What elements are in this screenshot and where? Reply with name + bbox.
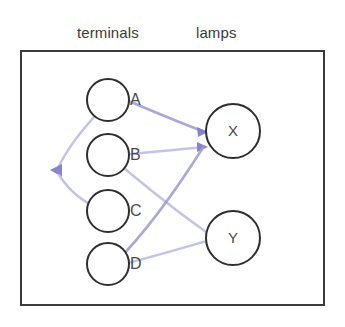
terminal-node-a[interactable] [87, 79, 129, 121]
terminal-label-b: B [130, 146, 141, 163]
terminal-node-d[interactable] [87, 243, 129, 285]
wire-b-to-y [112, 158, 212, 236]
wire-group [50, 100, 216, 273]
lamp-nodes: X Y [206, 104, 260, 265]
terminal-label-c: C [130, 202, 142, 219]
terminal-label-a: A [130, 91, 141, 108]
diagram-graphics: A B C D X Y [0, 0, 345, 327]
terminal-label-d: D [130, 255, 142, 272]
terminal-node-b[interactable] [87, 134, 129, 176]
terminal-nodes: A B C D [87, 79, 142, 285]
diagram-canvas: terminals lamps [0, 0, 345, 327]
lamp-label-y: Y [228, 229, 238, 246]
terminal-node-c[interactable] [87, 190, 129, 232]
lamp-label-x: X [228, 122, 238, 139]
